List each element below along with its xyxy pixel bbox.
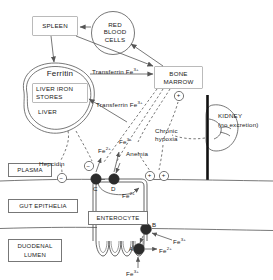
basal-membrane-right	[152, 229, 273, 231]
transporter-b-dot	[141, 224, 152, 235]
transporter-d-label: D	[111, 185, 116, 192]
hepcidin-label: Hepcidin	[39, 160, 65, 167]
transporter-a-dot	[134, 244, 145, 255]
plus-sign-bone-marrow: +	[177, 92, 181, 99]
diagram-vector-layer	[0, 0, 273, 280]
fe3-plasma-label: Fe3+	[119, 136, 132, 145]
fe2-intracellular-charge: 2+	[130, 191, 135, 196]
fe2-intracellular-label: Fe2+	[122, 190, 135, 199]
plus-sign-1: +	[148, 172, 152, 179]
arrow-fe3-to-b	[152, 233, 172, 240]
fe2-intracellular-text: Fe	[122, 192, 130, 199]
transferrin-top-text: Transferrin Fe	[92, 68, 133, 75]
plasma-membrane-right	[152, 180, 273, 182]
transferrin-bottom-charge: 3+	[137, 100, 142, 105]
minus-sign-2: −	[87, 163, 91, 170]
dashed-hypoxia-to-plus2	[159, 145, 163, 170]
liver-label: LIVER	[38, 108, 57, 115]
transferrin-top-label: Transferrin Fe3+	[92, 66, 139, 75]
chronic-hypoxia-label: Chronic hypoxia	[155, 127, 178, 143]
transporter-d-dot	[109, 174, 119, 184]
spleen-label: SPLEEN	[33, 17, 77, 35]
arrow-fe2-out-of-c	[96, 158, 101, 172]
fe2-from-a-text: Fe	[159, 247, 167, 254]
plasma-membrane-left	[0, 179, 105, 181]
transferrin-bottom-label: Transferrin Fe3+	[96, 99, 143, 108]
bone-marrow-label: BONE MARROW	[155, 67, 202, 88]
arrow-spleen-to-liver	[51, 36, 54, 62]
transferrin-top-charge: 3+	[133, 67, 138, 72]
arrow-fe3-out-of-d	[114, 152, 119, 172]
dashed-liver-to-hepcidin	[61, 131, 69, 160]
red-blood-cells-label: RED BLOOD CELLS	[98, 21, 132, 43]
enterocyte-label: ENTEROCYTE	[88, 211, 148, 225]
fe3-lumen-bottom-text: Fe	[126, 270, 134, 277]
basal-membrane-left	[0, 227, 97, 228]
transferrin-bottom-text: Transferrin Fe	[96, 101, 137, 108]
transporter-a-label: A	[129, 245, 133, 252]
kidney-note-label: (no excretion)	[218, 121, 259, 128]
fe2-plasma-c-text: Fe	[98, 147, 106, 154]
kidney-label: KIDNEY	[218, 112, 242, 119]
transporter-b-label: B	[152, 221, 156, 228]
minus-sign-1: −	[60, 175, 64, 182]
ferritin-label: Ferritin	[34, 70, 86, 77]
dashed-liver-to-minus2	[76, 131, 92, 161]
fe3-plasma-text: Fe	[119, 138, 127, 145]
fe3-lumen-bottom-label: Fe3+	[126, 268, 139, 277]
duodenal-lumen-compartment-label: DUODENAL LUMEN	[8, 239, 62, 262]
gut-epithelia-compartment-label: GUT EPITHELIA	[8, 199, 78, 213]
fe2-plasma-c-charge: 2+	[106, 146, 111, 151]
fe3-lumen-to-b-text: Fe	[173, 238, 181, 245]
fe3-lumen-bottom-charge: 3+	[134, 269, 139, 274]
kidney-calyx-2	[220, 132, 230, 136]
fe2-from-a-charge: 2+	[167, 246, 172, 251]
fe3-lumen-to-b-label: Fe3+	[173, 236, 186, 245]
transporter-c-label: C	[93, 185, 98, 192]
arrow-fe3-into-d	[116, 163, 120, 173]
fe2-plasma-c-label: Fe2+	[98, 145, 111, 154]
plus-sign-2: +	[162, 172, 166, 179]
fe2-from-a-label: Fe2+	[159, 245, 172, 254]
fe3-plasma-charge: 3+	[127, 137, 132, 142]
arrow-bone-marrow-to-rbc	[131, 44, 163, 66]
liver-iron-stores-label: LIVER IRON STORES	[33, 84, 87, 102]
diagram-canvas: SPLEEN RED BLOOD CELLS BONE MARROW Ferri…	[0, 0, 273, 280]
transporter-c-dot	[91, 174, 101, 184]
fe3-lumen-to-b-charge: 3+	[181, 237, 186, 242]
anemia-label: Anemia	[126, 150, 148, 157]
arrow-b-to-a	[140, 236, 143, 243]
